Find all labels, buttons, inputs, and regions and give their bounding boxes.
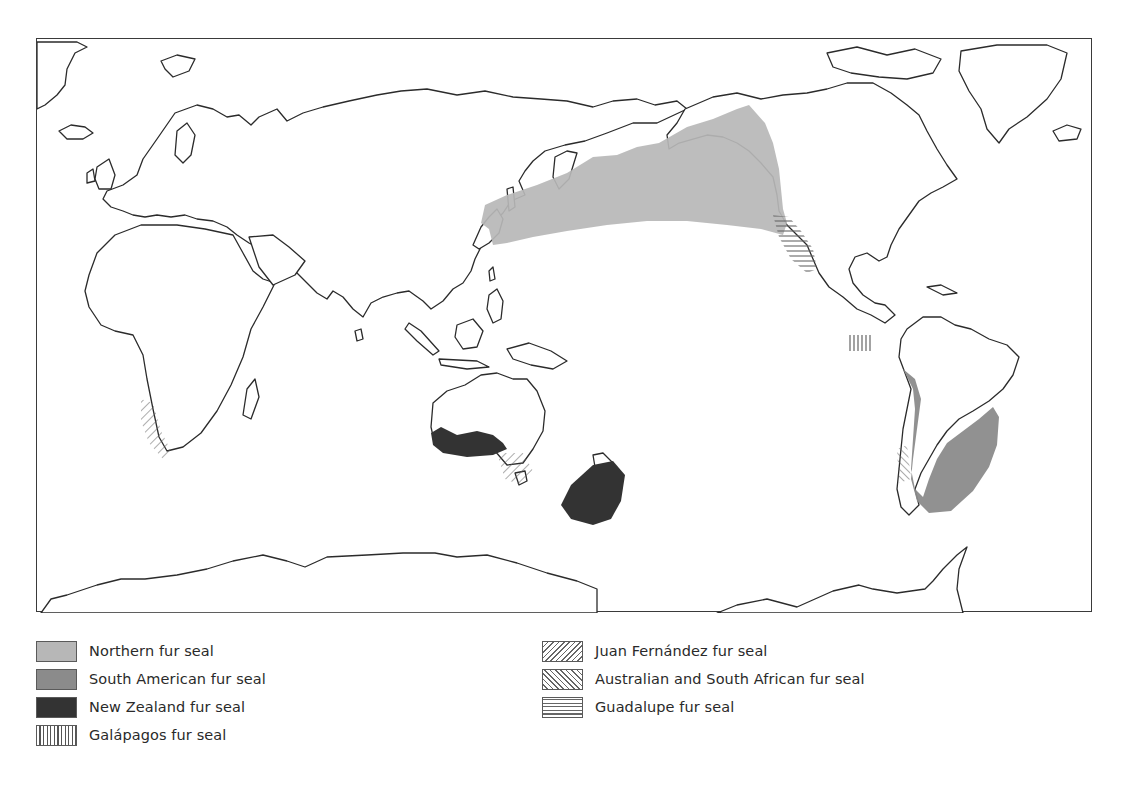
world-map: [36, 38, 1092, 612]
land-taiwan: [489, 267, 495, 281]
land-philippines: [487, 289, 503, 323]
land-java: [439, 359, 489, 369]
legend-item-juan-fernandez: Juan Fernández fur seal: [542, 637, 865, 665]
swatch-south-american: [36, 669, 77, 690]
map-canvas: [37, 39, 1093, 613]
land-antarctica-west: [41, 553, 597, 613]
land-greenland: [959, 45, 1067, 143]
land-cuba: [927, 285, 957, 295]
legend-left-column: Northern fur seal South American fur sea…: [36, 637, 266, 749]
legend-item-guadalupe: Guadalupe fur seal: [542, 693, 865, 721]
swatch-guadalupe: [542, 697, 583, 718]
range-australian-fur-seal: [497, 453, 533, 485]
range-new-zealand-fur-seal-nz: [561, 461, 625, 525]
swatch-juan-fernandez: [542, 641, 583, 662]
land-sumatra: [405, 323, 439, 355]
swatch-northern: [36, 641, 77, 662]
land-uk: [95, 159, 115, 189]
legend-right-column: Juan Fernández fur seal Australian and S…: [542, 637, 865, 721]
swatch-australian-south-african: [542, 669, 583, 690]
land-madagascar: [243, 379, 259, 419]
land-sri-lanka: [355, 329, 363, 341]
legend-label: Galápagos fur seal: [89, 727, 226, 743]
land-greenland-west: [37, 42, 87, 109]
range-galapagos-fur-seal: [849, 335, 871, 351]
land-iceland-west: [59, 125, 93, 139]
land-borneo: [455, 319, 483, 349]
legend-item-south-american: South American fur seal: [36, 665, 266, 693]
legend-item-galapagos: Galápagos fur seal: [36, 721, 266, 749]
land-new-guinea: [507, 343, 567, 369]
land-canadian-arctic: [827, 47, 941, 79]
legend-label: New Zealand fur seal: [89, 699, 245, 715]
land-ireland: [87, 169, 95, 183]
legend-label: Guadalupe fur seal: [595, 699, 734, 715]
swatch-galapagos: [36, 725, 77, 746]
land-iceland: [1053, 125, 1081, 141]
land-svalbard: [161, 55, 195, 77]
legend-label: Australian and South African fur seal: [595, 671, 865, 687]
legend-item-australian-south-african: Australian and South African fur seal: [542, 665, 865, 693]
legend-label: Juan Fernández fur seal: [595, 643, 768, 659]
land-antarctica-east: [717, 547, 967, 613]
legend-label: Northern fur seal: [89, 643, 214, 659]
legend-item-northern: Northern fur seal: [36, 637, 266, 665]
swatch-new-zealand: [36, 697, 77, 718]
legend-label: South American fur seal: [89, 671, 266, 687]
legend-item-new-zealand: New Zealand fur seal: [36, 693, 266, 721]
